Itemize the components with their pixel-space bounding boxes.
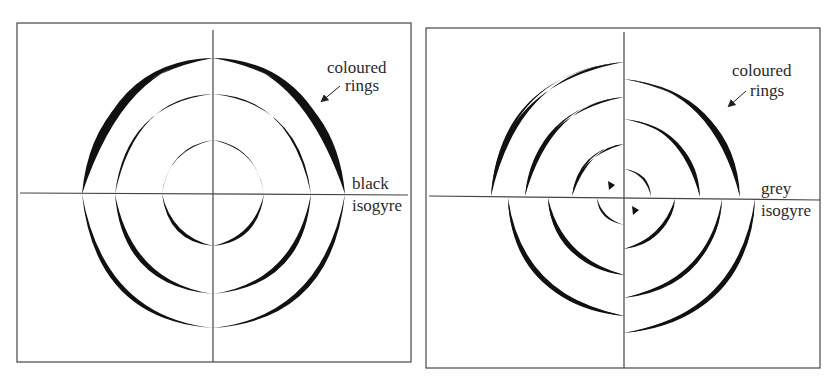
left-middle-ring-q4 xyxy=(213,194,311,294)
right-panel: coloured rings grey isogyre xyxy=(426,28,820,368)
left-inner-ring-q4 xyxy=(213,194,264,246)
left-inner-ring-q2 xyxy=(162,140,213,194)
right-ring-ll-inner xyxy=(597,198,624,225)
right-melatope-marker-upper-icon xyxy=(608,181,615,190)
left-horizontal-axis xyxy=(20,193,408,195)
right-ring-ul-inner xyxy=(572,144,624,196)
left-outer-ring-q1 xyxy=(213,58,345,194)
left-middle-ring-q3 xyxy=(115,194,213,294)
left-inner-ring-q1 xyxy=(213,140,264,194)
left-label-black: black xyxy=(352,174,389,193)
left-label-rings: rings xyxy=(345,76,379,95)
left-outer-ring-q4 xyxy=(213,194,345,328)
left-outer-ring-q3 xyxy=(82,194,213,328)
right-ring-ul-middle xyxy=(525,97,624,196)
right-melatope-marker-lower-icon xyxy=(632,206,639,215)
right-label-rings: rings xyxy=(750,81,784,100)
isogyre-figure: coloured rings black isogyre xyxy=(0,0,837,384)
right-ring-ll-middle xyxy=(548,198,624,275)
left-label-isogyre: isogyre xyxy=(352,196,402,215)
right-label-coloured: coloured xyxy=(732,61,792,80)
left-label-coloured: coloured xyxy=(327,58,387,77)
right-ring-lr-inner xyxy=(624,199,675,249)
right-label-isogyre: isogyre xyxy=(761,201,811,220)
left-arrow-icon xyxy=(322,86,340,101)
left-inner-ring-q3 xyxy=(162,194,213,246)
right-label-grey: grey xyxy=(761,179,792,198)
left-panel: coloured rings black isogyre xyxy=(17,23,411,362)
left-outer-ring-q2 xyxy=(82,58,213,194)
right-ring-lr-middle xyxy=(624,199,722,298)
right-arrow-icon xyxy=(729,91,746,106)
right-ring-ur-inner xyxy=(624,169,651,197)
